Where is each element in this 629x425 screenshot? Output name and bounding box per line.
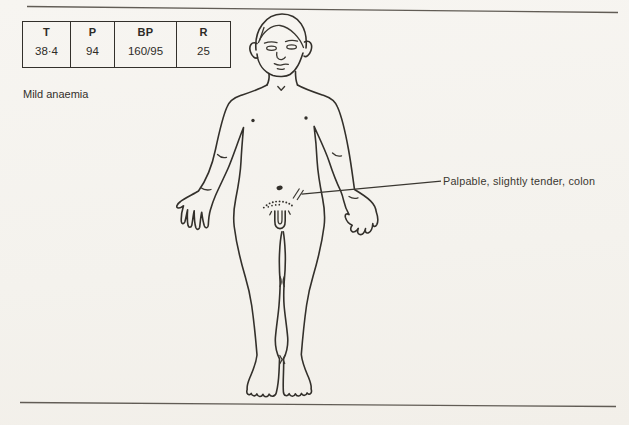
neck-left — [267, 74, 269, 86]
genital-outline-inner — [278, 211, 282, 224]
left-elbow-crease — [218, 155, 227, 158]
right-ear — [304, 41, 312, 56]
pubic-hair-dots — [263, 200, 293, 208]
vitals-value: 25 — [197, 46, 210, 58]
vitals-cell-respiration: R 25 — [177, 22, 230, 67]
vitals-header: T — [43, 27, 50, 38]
top-rule — [27, 7, 618, 13]
vitals-header: BP — [138, 27, 154, 38]
groin-tick-right — [289, 211, 291, 214]
vitals-value: 94 — [86, 46, 99, 58]
vitals-header: R — [199, 27, 207, 38]
leader-line — [302, 181, 442, 194]
left-eyebrow — [265, 42, 278, 43]
vitals-header: P — [89, 27, 97, 38]
navel — [276, 185, 283, 191]
annotation-label: Palpable, slightly tender, colon — [443, 175, 595, 187]
right-nipple — [304, 116, 307, 119]
left-nipple — [251, 119, 254, 122]
scanned-document-page: T 38·4 P 94 BP 160/95 R 25 Mild anaemia … — [0, 0, 629, 425]
vitals-cell-temperature: T 38·4 — [23, 22, 71, 67]
head-outline — [256, 14, 306, 50]
vitals-value: 160/95 — [128, 46, 163, 58]
nose — [277, 53, 286, 60]
right-wrist-crease — [349, 197, 358, 199]
vitals-table: T 38·4 P 94 BP 160/95 R 25 — [22, 21, 231, 68]
right-eyebrow — [286, 40, 298, 41]
vitals-cell-blood-pressure: BP 160/95 — [115, 22, 177, 67]
left-wrist-crease — [201, 188, 212, 190]
bottom-rule — [20, 403, 616, 407]
right-elbow-crease — [333, 153, 342, 156]
sternal-notch — [278, 87, 285, 91]
groin-tick-left — [270, 212, 272, 215]
hairline — [259, 25, 304, 47]
vitals-value: 38·4 — [35, 46, 58, 58]
neck-right — [295, 72, 297, 86]
genital-outline-outer — [275, 211, 285, 229]
body-outline-left — [177, 85, 282, 397]
clinical-note: Mild anaemia — [23, 88, 88, 100]
vitals-cell-pulse: P 94 — [71, 22, 115, 67]
right-eye — [287, 45, 297, 49]
mouth — [274, 64, 288, 66]
human-figure-illustration — [177, 14, 378, 397]
left-eye — [267, 46, 277, 50]
chin-crease — [277, 69, 284, 70]
body-outline-right — [283, 85, 378, 396]
